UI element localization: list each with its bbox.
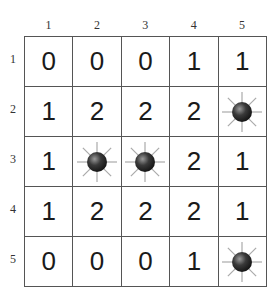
cell-value: 0 [90, 46, 104, 77]
cell-number[interactable]: 1 [170, 37, 218, 87]
cell-number[interactable]: 0 [25, 37, 73, 87]
cell-number[interactable]: 1 [219, 137, 267, 187]
row-label: 3 [6, 152, 20, 167]
cell-value: 1 [235, 196, 249, 227]
cell-number[interactable]: 1 [25, 187, 73, 237]
column-label: 3 [121, 18, 170, 33]
cell-number[interactable]: 2 [73, 187, 121, 237]
cell-number[interactable]: 0 [73, 37, 121, 87]
cell-value: 2 [138, 196, 152, 227]
cell-number[interactable]: 1 [170, 237, 218, 287]
cell-number[interactable]: 2 [122, 87, 170, 137]
cell-value: 1 [235, 46, 249, 77]
cell-value: 1 [41, 146, 55, 177]
cell-number[interactable]: 2 [122, 187, 170, 237]
mine-icon [124, 141, 166, 183]
cell-number[interactable]: 0 [122, 237, 170, 287]
row-label: 5 [6, 252, 20, 267]
cell-number[interactable]: 0 [122, 37, 170, 87]
cell-value: 2 [138, 96, 152, 127]
cell-number[interactable]: 1 [25, 87, 73, 137]
cell-number[interactable]: 2 [170, 137, 218, 187]
cell-number[interactable]: 2 [73, 87, 121, 137]
cell-value: 1 [41, 196, 55, 227]
row-label: 4 [6, 202, 20, 217]
cell-mine[interactable] [73, 137, 121, 187]
cell-mine[interactable] [219, 87, 267, 137]
column-label: 1 [24, 18, 73, 33]
cell-value: 2 [187, 96, 201, 127]
column-label: 2 [72, 18, 121, 33]
cell-number[interactable]: 1 [25, 137, 73, 187]
cell-value: 2 [90, 96, 104, 127]
mine-icon [221, 241, 263, 283]
row-label: 2 [6, 102, 20, 117]
mine-icon [76, 141, 118, 183]
cell-value: 0 [138, 46, 152, 77]
mine-icon [221, 91, 263, 133]
cell-value: 2 [187, 146, 201, 177]
cell-value: 1 [41, 96, 55, 127]
cell-number[interactable]: 0 [73, 237, 121, 287]
cell-value: 0 [41, 246, 55, 277]
cell-value: 0 [41, 46, 55, 77]
cell-value: 1 [187, 246, 201, 277]
cell-value: 0 [90, 246, 104, 277]
cell-number[interactable]: 2 [170, 187, 218, 237]
cell-mine[interactable] [122, 137, 170, 187]
column-label: 5 [218, 18, 267, 33]
cell-value: 0 [138, 246, 152, 277]
row-label: 1 [6, 52, 20, 67]
cell-number[interactable]: 1 [219, 37, 267, 87]
cell-value: 1 [187, 46, 201, 77]
cell-number[interactable]: 2 [170, 87, 218, 137]
cell-number[interactable]: 1 [219, 187, 267, 237]
cell-number[interactable]: 0 [25, 237, 73, 287]
cell-mine[interactable] [219, 237, 267, 287]
minesweeper-grid: 000111222 1 21122210001 [24, 36, 267, 287]
cell-value: 1 [235, 146, 249, 177]
column-label: 4 [169, 18, 218, 33]
cell-value: 2 [187, 196, 201, 227]
cell-value: 2 [90, 196, 104, 227]
